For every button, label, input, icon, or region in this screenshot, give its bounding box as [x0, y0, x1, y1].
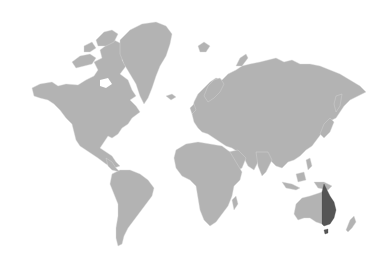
region-arctic-island[interactable] [84, 42, 96, 52]
region-australia-west[interactable] [294, 192, 322, 224]
region-tasmania[interactable] [324, 229, 328, 234]
map-canvas [0, 0, 388, 261]
region-india[interactable] [256, 152, 272, 176]
region-south-america[interactable] [110, 170, 154, 246]
region-novaya-zemlya[interactable] [236, 54, 248, 66]
region-philippines[interactable] [306, 158, 312, 170]
region-svalbard[interactable] [198, 42, 210, 52]
region-indonesia[interactable] [282, 182, 300, 190]
region-new-zealand[interactable] [346, 216, 356, 232]
region-borneo[interactable] [296, 172, 306, 182]
region-iceland[interactable] [166, 94, 176, 100]
region-arctic-islands[interactable] [72, 54, 96, 68]
region-madagascar[interactable] [232, 196, 238, 210]
region-eastern-australia[interactable] [322, 184, 336, 226]
world-map: Eastern Australia [0, 0, 388, 261]
